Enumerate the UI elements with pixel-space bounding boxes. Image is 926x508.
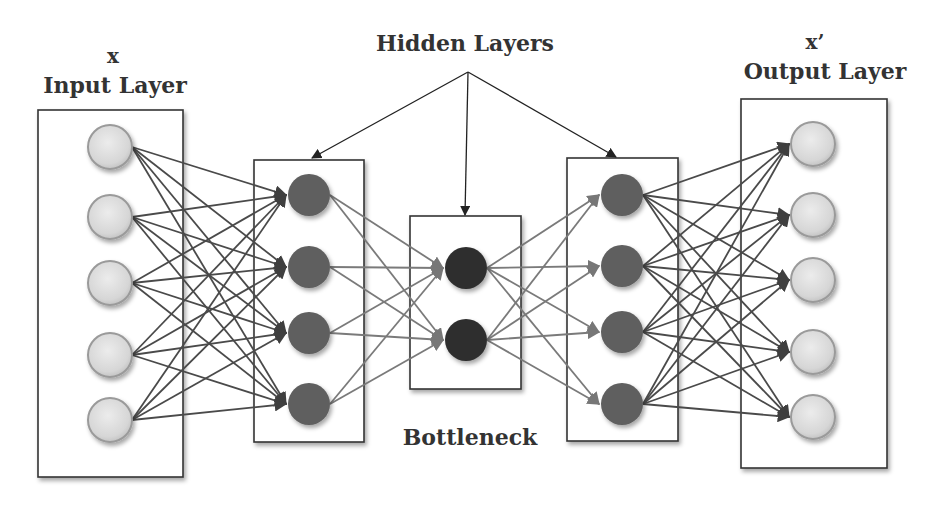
output-node <box>791 330 835 374</box>
hidden1-node <box>288 246 330 288</box>
output-node <box>791 193 835 237</box>
autoencoder-diagram <box>0 0 926 508</box>
hidden2-node <box>601 245 643 287</box>
edge <box>330 267 443 268</box>
input-node <box>88 261 132 305</box>
hidden1-node <box>288 383 330 425</box>
bottleneck-node <box>445 319 487 361</box>
output-node <box>791 258 835 302</box>
input-node <box>88 398 132 442</box>
hidden2-node <box>601 174 643 216</box>
input-node <box>88 125 132 169</box>
hidden2-node <box>601 311 643 353</box>
output-node <box>791 122 835 166</box>
bottleneck-box <box>410 216 521 389</box>
input-node <box>88 333 132 377</box>
bottleneck-node <box>445 247 487 289</box>
hidden1-node <box>288 312 330 354</box>
output-node <box>791 395 835 439</box>
input-node <box>88 195 132 239</box>
hidden1-node <box>288 174 330 216</box>
hidden2-node <box>601 383 643 425</box>
